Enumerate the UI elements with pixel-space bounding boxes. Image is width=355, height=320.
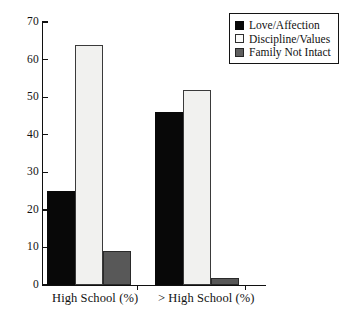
legend-item: Love/Affection: [235, 19, 331, 32]
legend-item-label: Discipline/Values: [249, 33, 330, 45]
legend-item: Family Not Intact: [235, 46, 331, 59]
legend-item-label: Love/Affection: [249, 19, 320, 31]
y-axis-tick-label: 30: [27, 166, 39, 178]
bar-chart: 010203040506070 High School (%)> High Sc…: [0, 0, 355, 320]
chart-legend: Love/Affection Discipline/Values Family …: [229, 13, 339, 64]
bar: [211, 278, 239, 286]
bar: [155, 112, 183, 285]
legend-swatch-icon: [235, 48, 244, 57]
legend-swatch-icon: [235, 21, 244, 30]
y-axis-tick-label: 40: [27, 129, 39, 141]
bar: [75, 45, 103, 285]
x-axis-group-label: High School (%): [52, 291, 138, 305]
x-axis-group-label: > High School (%): [158, 291, 255, 305]
bar: [47, 191, 75, 285]
legend-item-label: Family Not Intact: [249, 46, 331, 58]
bar: [103, 251, 131, 285]
bar: [183, 90, 211, 285]
legend-item: Discipline/Values: [235, 32, 331, 45]
legend-swatch-icon: [235, 34, 244, 43]
y-axis-tick-label: 0: [33, 279, 39, 291]
y-axis-tick-label: 20: [27, 204, 39, 216]
x-axis-group-tick: [245, 285, 246, 290]
y-axis-tick-label: 70: [27, 16, 39, 28]
y-axis-tick-label: 50: [27, 91, 39, 103]
y-axis-tick-label: 60: [27, 54, 39, 66]
x-axis-group-tick: [137, 285, 138, 290]
y-axis-tick-label: 10: [27, 241, 39, 253]
